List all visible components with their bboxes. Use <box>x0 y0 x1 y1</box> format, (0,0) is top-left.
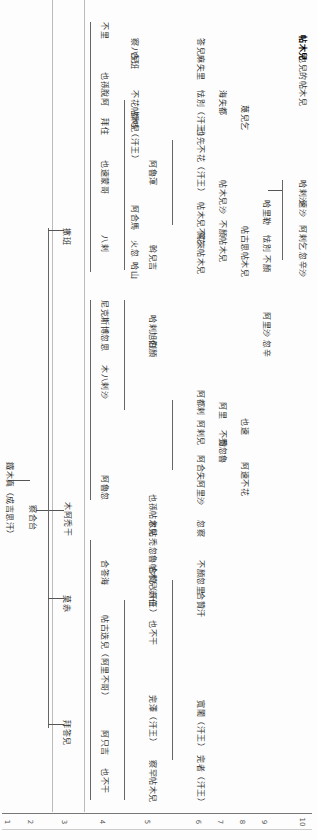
tree-node: 合贊汗 <box>196 592 205 618</box>
tree-node: 帖木兒 <box>298 35 307 61</box>
generation-number: 10 <box>298 818 306 827</box>
tree-node: 寬闍（汗王） <box>196 700 205 751</box>
tree-node: 哈剌沙 <box>298 180 307 206</box>
generation-number: 9 <box>260 820 268 824</box>
tree-node: 撒班 <box>62 228 71 245</box>
generation-number: 8 <box>238 820 246 824</box>
tree-node: 木八剌沙 <box>100 365 109 399</box>
tree-node: 也孫脫阿 <box>100 72 109 106</box>
tree-node: 忽察 <box>196 520 205 537</box>
tree-node: 也速蒙哥 <box>100 160 109 194</box>
tree-node: 阿速不花 <box>240 462 249 496</box>
generation-number: 3 <box>60 820 68 824</box>
tree-node: 莫赤 <box>62 595 71 612</box>
tree-node: 哈山 <box>130 262 139 279</box>
connector-gen4-upper <box>90 22 91 272</box>
tree-node: 不顏 <box>262 255 271 272</box>
tree-node: 完澤（汗王） <box>148 695 157 746</box>
generation-number: 5 <box>143 820 151 824</box>
tree-node: 火忽 <box>130 240 139 257</box>
tree-node: 阿都剌 <box>196 390 205 416</box>
trunk-line-gen3 <box>84 0 85 812</box>
connector-gen5-upper <box>124 100 125 270</box>
tree-node: 不里 <box>100 22 109 39</box>
generation-ruler-line <box>2 813 312 814</box>
generation-number: 6 <box>194 820 202 824</box>
generation-number: 1 <box>3 820 11 824</box>
tree-node: 蔑兒乞 <box>240 105 249 131</box>
tree-node: 阿里沙 <box>262 312 271 338</box>
generation-number: 4 <box>98 820 106 824</box>
tree-node: 也不干 <box>148 620 157 646</box>
tree-node: 拜住 <box>100 118 109 135</box>
tree-node: 阿合失 <box>196 455 205 481</box>
connector-gen4-mid <box>90 300 91 500</box>
tree-node: 也兒的帖木兒 <box>298 55 307 106</box>
tree-node: 木阿禿干 <box>63 502 72 536</box>
tree-node: 阿魯渾 <box>148 160 157 186</box>
connector-gen6-mid <box>172 400 173 470</box>
tree-node: 阿合馬 <box>130 205 139 231</box>
tree-node: 阿魯忽 <box>100 475 109 501</box>
tree-node: 帖木兒不花 <box>196 202 205 245</box>
connector-gen3-span <box>48 228 49 728</box>
tree-node: 察合台 <box>28 505 37 531</box>
generation-ruler-line-faint <box>2 829 312 830</box>
connector-gen6-upper <box>172 140 173 225</box>
connector-gen6-lower <box>172 580 173 760</box>
tree-node: 阿里沙 <box>196 480 205 506</box>
tree-node: 不顏帖木兒 <box>218 220 227 263</box>
tree-node: 阿只吉 <box>100 730 109 756</box>
tree-node: 海失都 <box>218 90 227 116</box>
tree-node: 阿里 <box>218 402 227 419</box>
tree-node: 阿剌乞 <box>298 225 307 251</box>
tree-node: 不花帖木兒 <box>130 90 139 133</box>
tree-node: 察八兒 <box>130 38 139 64</box>
tree-node: 合答海 <box>100 560 109 586</box>
tree-node: 察罕帖木兒 <box>148 760 157 803</box>
tree-node: 忽辛 <box>262 340 271 357</box>
tree-node: 帖古迭兒（阿里不哥） <box>100 615 109 700</box>
tree-node: 斡兒吉 <box>148 245 157 271</box>
connector-gen5-lower <box>124 600 125 800</box>
connector-chag-gen3 <box>36 510 64 511</box>
connector-gen10 <box>282 180 283 260</box>
connector-gen5-mid <box>124 300 125 410</box>
tree-node: 完者（汗王） <box>196 755 205 806</box>
tree-node: 八剌 <box>100 235 109 252</box>
tree-node: 不贊 <box>218 430 227 447</box>
tree-node: 也不干 <box>100 768 109 794</box>
document-page: 12345678910 鐵木真（成吉思汗）察合台木阿禿干撒班莫赤拜答兒不里也孫脫… <box>0 0 318 840</box>
connector-gen9-10 <box>268 190 282 191</box>
tree-node: 哈里勒 <box>262 200 271 226</box>
tree-node: 哈剌旭烈 <box>148 315 157 349</box>
tree-node: 答兒麻失里 <box>196 38 205 81</box>
tree-node: 尼克斯博忽思 <box>100 300 109 351</box>
tree-node: 也速 <box>240 418 249 435</box>
tree-node: 帖木兒沙 <box>218 180 227 214</box>
trunk-line-gen2 <box>52 0 53 812</box>
connector-gen4-lower <box>90 540 91 800</box>
tree-node: 鐵木真（成吉思汗） <box>5 462 14 539</box>
tree-node: 也孫帖木兒 <box>148 494 157 537</box>
tree-node: 拜答兒 <box>62 720 71 746</box>
tree-node: 忽辛沙 <box>298 252 307 278</box>
tree-node: 阿剌兒 <box>196 420 205 446</box>
tree-node: 禿忽魯帖木兒 <box>148 538 157 589</box>
tree-node: 怯別（汗王） <box>196 90 205 141</box>
generation-number: 2 <box>26 820 34 824</box>
tree-node: 怯別 <box>262 235 271 252</box>
tree-node: 不顏忽里 <box>196 560 205 594</box>
tree-node: 帖古思帖木兒 <box>240 226 249 277</box>
generation-number: 7 <box>216 820 224 824</box>
